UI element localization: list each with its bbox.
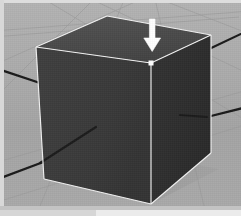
scene-canvas[interactable] xyxy=(4,3,241,206)
bottom-strip xyxy=(0,206,241,216)
axis-line-y-right xyxy=(207,31,241,50)
status-strip-panel[interactable] xyxy=(96,210,241,216)
app-window xyxy=(0,0,241,216)
axis-line-x-right xyxy=(207,107,241,117)
world-axes-right xyxy=(207,31,241,117)
selected-vertex-handle[interactable] xyxy=(149,61,154,66)
perspective-viewport[interactable] xyxy=(4,3,241,206)
cube-object[interactable] xyxy=(36,16,211,204)
cube-front-left-face[interactable] xyxy=(36,47,151,204)
